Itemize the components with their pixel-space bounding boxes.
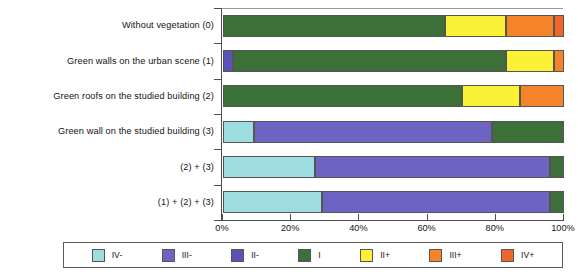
legend-swatch-icon <box>360 249 373 262</box>
legend-swatch-icon <box>231 249 244 262</box>
bar-row <box>223 85 564 107</box>
bar-segment <box>520 85 564 107</box>
bar-segment <box>315 156 550 178</box>
legend-label: I <box>318 250 320 260</box>
bar-segment <box>233 50 506 72</box>
category-tick <box>214 185 221 186</box>
x-axis-tick-label: 80% <box>475 223 515 234</box>
category-label: Green walls on the urban scene (1) <box>0 56 214 67</box>
legend-item[interactable]: IV+ <box>501 249 534 262</box>
category-axis-labels: Without vegetation (0)Green walls on the… <box>0 8 218 220</box>
legend-item[interactable]: IV- <box>92 249 123 262</box>
category-label: (2) + (3) <box>0 162 214 173</box>
category-tick <box>214 43 221 44</box>
bar-segment <box>550 156 564 178</box>
legend-label: IV- <box>112 250 123 260</box>
x-axis-tick <box>358 214 359 221</box>
bar-segment <box>492 121 564 143</box>
bar-segment <box>223 85 462 107</box>
bar-segment <box>554 50 564 72</box>
x-axis-tick <box>563 214 564 221</box>
category-label: Green roofs on the studied building (2) <box>0 91 214 102</box>
legend-item[interactable]: I <box>298 249 320 262</box>
bar-row <box>223 15 564 37</box>
bar-segment <box>223 121 254 143</box>
category-label: Without vegetation (0) <box>0 20 214 31</box>
legend-swatch-icon <box>162 249 175 262</box>
legend-item[interactable]: III- <box>162 249 192 262</box>
legend-label: II- <box>251 250 259 260</box>
bar-segment <box>223 50 233 72</box>
category-label: Green wall on the studied building (3) <box>0 126 214 137</box>
category-tick <box>214 220 221 221</box>
category-label: (1) + (2) + (3) <box>0 197 214 208</box>
stacked-bar-chart: Without vegetation (0)Green walls on the… <box>0 0 578 276</box>
legend-items: IV-III-II-III+III+IV+ <box>64 243 562 267</box>
x-axis-tick-label: 100% <box>543 223 578 234</box>
x-axis-tick-label: 60% <box>407 223 447 234</box>
x-axis-line <box>221 220 564 221</box>
chart-legend: IV-III-II-III+III+IV+ <box>63 242 563 268</box>
x-axis-tick <box>427 214 428 221</box>
x-axis-tick <box>495 214 496 221</box>
bar-row <box>223 121 564 143</box>
bar-row <box>223 156 564 178</box>
legend-item[interactable]: II- <box>231 249 259 262</box>
legend-label: III+ <box>449 250 461 260</box>
bar-segment <box>223 191 322 213</box>
x-axis-tick-label: 20% <box>270 223 310 234</box>
bar-segment <box>550 191 564 213</box>
bar-segment <box>506 50 554 72</box>
legend-label: III- <box>182 250 192 260</box>
category-tick <box>214 149 221 150</box>
category-tick <box>214 8 221 9</box>
bar-segment <box>223 156 315 178</box>
x-axis-tick <box>290 214 291 221</box>
bar-segment <box>254 121 493 143</box>
category-tick <box>214 79 221 80</box>
legend-item[interactable]: III+ <box>429 249 461 262</box>
bar-row <box>223 191 564 213</box>
legend-label: II+ <box>380 250 390 260</box>
x-axis-tick-label: 0% <box>202 223 242 234</box>
bar-segment <box>322 191 550 213</box>
bar-row <box>223 50 564 72</box>
legend-swatch-icon <box>298 249 311 262</box>
x-axis-tick-label: 40% <box>338 223 378 234</box>
bar-segment <box>445 15 506 37</box>
category-tick <box>214 114 221 115</box>
bar-segment <box>223 15 445 37</box>
legend-swatch-icon <box>429 249 442 262</box>
legend-swatch-icon <box>501 249 514 262</box>
legend-item[interactable]: II+ <box>360 249 390 262</box>
bar-segment <box>462 85 520 107</box>
x-axis-tick <box>222 214 223 221</box>
legend-label: IV+ <box>521 250 534 260</box>
bar-segment <box>554 15 564 37</box>
legend-swatch-icon <box>92 249 105 262</box>
bar-segment <box>506 15 554 37</box>
plot-area <box>221 8 563 220</box>
